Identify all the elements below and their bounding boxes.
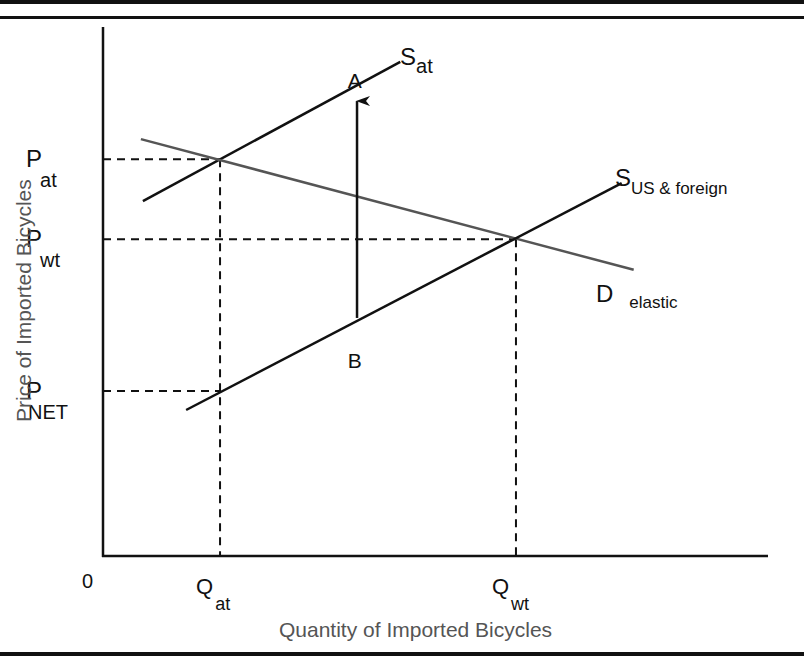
origin-label: 0 (82, 570, 93, 592)
quantity-label-q-at: Qat (196, 574, 230, 614)
point-label-b: B (348, 349, 362, 372)
curve-d-elastic (141, 139, 634, 270)
supply-demand-diagram: PatPwtPNETQatQwtSatDelasticSUS & foreign… (0, 0, 804, 661)
curve-label-s-us-foreign: SUS & foreign (615, 164, 727, 198)
curve-label-s-at: Sat (400, 43, 433, 77)
quantity-label-q-wt: Qwt (492, 574, 529, 614)
point-label-a: A (348, 69, 362, 92)
curve-label-d-elastic: Delastic (596, 280, 678, 312)
x-axis-title: Quantity of Imported Bicycles (279, 618, 552, 641)
curve-s-us-foreign (186, 183, 622, 410)
y-axis-title: Price of Imported Bicycles (12, 179, 35, 422)
